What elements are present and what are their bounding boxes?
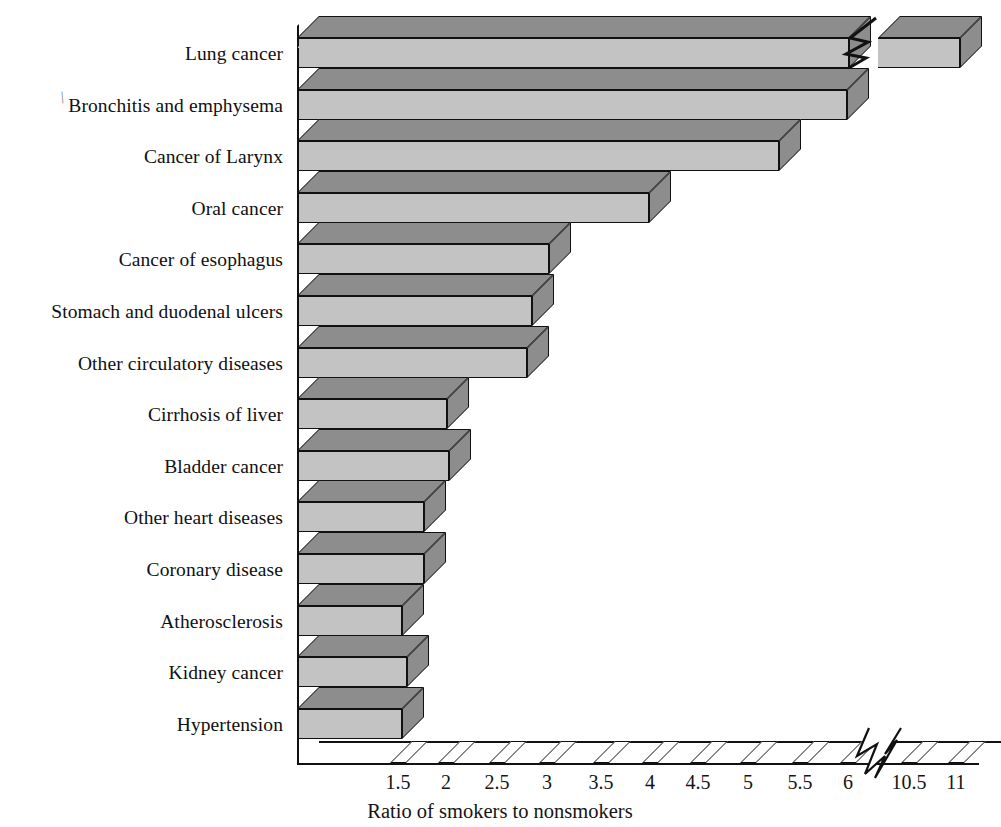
bar-top-face bbox=[297, 119, 801, 141]
x-tick-mark bbox=[740, 741, 778, 763]
bar-top-face bbox=[297, 480, 446, 502]
bar-11 bbox=[297, 606, 402, 636]
category-label: Bladder cancer bbox=[0, 457, 283, 477]
x-tick-mark bbox=[948, 741, 986, 763]
bar-top-face bbox=[297, 68, 869, 90]
x-tick-label: 6 bbox=[813, 771, 883, 794]
bar-0-segment-a bbox=[297, 38, 849, 68]
bar-front-face bbox=[297, 502, 424, 532]
bar-top-face bbox=[297, 274, 554, 296]
category-label: Coronary disease bbox=[0, 560, 283, 580]
x-axis-title: Ratio of smokers to nonsmokers bbox=[0, 800, 1000, 823]
bar-front-face bbox=[297, 90, 847, 120]
bar-front-face bbox=[297, 399, 447, 429]
bar-8 bbox=[297, 451, 449, 481]
bar-top-face bbox=[297, 532, 446, 554]
x-tick-mark bbox=[438, 741, 476, 763]
bar-3 bbox=[297, 193, 649, 223]
bar-top-face bbox=[297, 377, 469, 399]
category-label: Lung cancer bbox=[0, 44, 283, 64]
category-label: Hypertension bbox=[0, 715, 283, 735]
category-label: Cancer of esophagus bbox=[0, 250, 283, 270]
bar-9 bbox=[297, 502, 424, 532]
bar-front-face bbox=[297, 451, 449, 481]
category-label: Kidney cancer bbox=[0, 663, 283, 683]
bar-12 bbox=[297, 657, 407, 687]
category-label: Cancer of Larynx bbox=[0, 147, 283, 167]
bar-front-face bbox=[297, 193, 649, 223]
bar-top-face bbox=[297, 171, 671, 193]
bar-front-face bbox=[297, 657, 407, 687]
x-tick-mark bbox=[642, 741, 680, 763]
bar-7 bbox=[297, 399, 447, 429]
x-tick-mark bbox=[390, 741, 428, 763]
y-axis-cap bbox=[297, 24, 299, 48]
x-tick-mark bbox=[792, 741, 830, 763]
y-axis bbox=[297, 48, 299, 764]
x-tick-mark bbox=[593, 741, 631, 763]
bar-top-face bbox=[297, 429, 471, 451]
x-tick-mark bbox=[690, 741, 728, 763]
bar-front-face bbox=[297, 244, 549, 274]
bar-front-face bbox=[297, 296, 532, 326]
bar-front-face bbox=[297, 709, 402, 739]
category-label: Bronchitis and emphysema bbox=[0, 96, 283, 116]
bar-front-face bbox=[297, 348, 527, 378]
bar-6 bbox=[297, 348, 527, 378]
bar-13 bbox=[297, 709, 402, 739]
bar-5 bbox=[297, 296, 532, 326]
bar-front-face bbox=[297, 554, 424, 584]
bar-10 bbox=[297, 554, 424, 584]
category-label: Other heart diseases bbox=[0, 508, 283, 528]
category-label: Cirrhosis of liver bbox=[0, 405, 283, 425]
bar-4 bbox=[297, 244, 549, 274]
bar-front-face bbox=[297, 38, 849, 68]
bar-top-face bbox=[297, 16, 871, 38]
category-label: Stomach and duodenal ulcers bbox=[0, 302, 283, 322]
category-label: Oral cancer bbox=[0, 199, 283, 219]
bar-top-face bbox=[297, 222, 571, 244]
category-label: Other circulatory diseases bbox=[0, 354, 283, 374]
bar-top-face bbox=[297, 326, 549, 348]
bar-front-face bbox=[297, 606, 402, 636]
x-tick-mark bbox=[539, 741, 577, 763]
category-label: Atherosclerosis bbox=[0, 612, 283, 632]
bar-1 bbox=[297, 90, 847, 120]
bar-2 bbox=[297, 141, 779, 171]
x-tick-mark bbox=[489, 741, 527, 763]
bar-front-face bbox=[297, 141, 779, 171]
x-tick-label: 11 bbox=[921, 771, 991, 794]
